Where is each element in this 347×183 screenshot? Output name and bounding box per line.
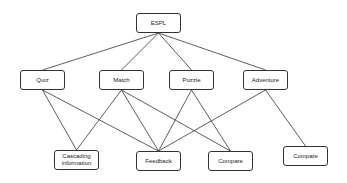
node-compare-1: Compare — [208, 151, 253, 171]
node-label: Compare — [218, 158, 243, 165]
node-cascading-information: Cascading information — [54, 150, 99, 170]
node-compare-2: Compare — [283, 146, 328, 166]
node-label: ESPL — [151, 20, 166, 27]
node-label: Cascading information — [62, 153, 92, 167]
node-label: Quiz — [36, 77, 48, 84]
node-quiz: Quiz — [20, 70, 65, 90]
node-puzzle: Puzzle — [169, 70, 214, 90]
node-match: Match — [99, 70, 144, 90]
node-label: Match — [113, 77, 129, 84]
node-feedback: Feedback — [136, 151, 181, 171]
node-label: Adventure — [252, 77, 279, 84]
node-label: Feedback — [145, 158, 171, 165]
node-adventure: Adventure — [243, 70, 288, 90]
edge-match-feedback — [122, 90, 159, 151]
hierarchy-diagram: ESPL Quiz Match Puzzle Adventure Cascadi… — [0, 0, 347, 183]
edge-adventure-compare2 — [266, 90, 306, 146]
node-espl: ESPL — [136, 13, 181, 33]
edge-espl-quiz — [43, 33, 159, 70]
node-label: Compare — [293, 153, 318, 160]
edge-puzzle-compare1 — [192, 90, 231, 151]
node-label: Puzzle — [182, 77, 200, 84]
edge-match-compare1 — [122, 90, 231, 151]
edge-match-cascading — [77, 90, 122, 150]
